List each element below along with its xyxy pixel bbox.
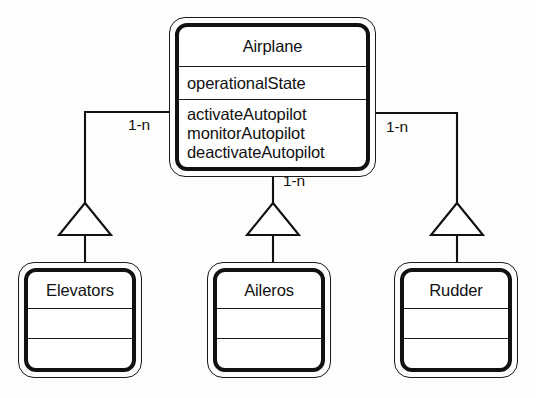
class-attributes-ailerons [217,308,321,338]
class-attribute-operationalstate: operationalState [179,66,366,99]
class-operations-elevators [28,338,132,368]
multiplicity-label-rudder: 1-n [386,118,408,136]
multiplicity-label-ailerons: 1-n [283,172,305,190]
class-box-ailerons-inner: Aileros [213,268,325,372]
class-operations-ailerons [217,338,321,368]
class-operations-airplane: activateAutopilot monitorAutopilot deact… [179,99,366,167]
class-name-rudder: Rudder [404,272,508,308]
multiplicity-label-elevators: 1-n [128,116,150,134]
generalization-arrowhead-elevators [59,203,111,235]
generalization-line-elevators [85,112,169,205]
class-box-ailerons[interactable]: Aileros [207,262,331,378]
class-box-rudder-inner: Rudder [400,268,512,372]
class-box-elevators-inner: Elevators [24,268,136,372]
class-name-elevators: Elevators [28,272,132,308]
generalization-arrowhead-ailerons [247,203,299,235]
class-name-ailerons: Aileros [217,272,321,308]
uml-class-diagram-canvas: Airplane operationalState activateAutopi… [0,0,536,398]
class-box-airplane[interactable]: Airplane operationalState activateAutopi… [169,17,376,177]
class-operation-monitorautopilot: monitorAutopilot [187,124,305,143]
class-attributes-rudder [404,308,508,338]
generalization-arrowhead-rudder [431,203,483,235]
class-box-rudder[interactable]: Rudder [394,262,518,378]
class-box-airplane-inner: Airplane operationalState activateAutopi… [175,23,370,171]
class-name-airplane: Airplane [179,27,366,66]
class-operation-deactivateautopilot: deactivateAutopilot [187,143,325,162]
class-attributes-elevators [28,308,132,338]
class-operation-activateautopilot: activateAutopilot [187,105,306,124]
class-box-elevators[interactable]: Elevators [18,262,142,378]
class-operations-rudder [404,338,508,368]
